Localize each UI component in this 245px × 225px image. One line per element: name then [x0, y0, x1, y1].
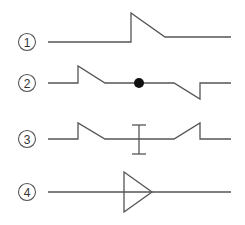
label-3: 3: [24, 133, 31, 147]
symbol-diagram: 1 2 3 4: [0, 0, 245, 225]
label-1: 1: [24, 36, 31, 50]
row-2: 2: [19, 66, 232, 99]
dot-icon: [134, 78, 144, 88]
label-2: 2: [24, 77, 31, 91]
row-1: 1: [19, 13, 232, 51]
row-3: 3: [19, 123, 232, 154]
symbol-line-1: [48, 13, 231, 42]
label-4: 4: [24, 186, 31, 200]
row-4: 4: [19, 172, 232, 212]
